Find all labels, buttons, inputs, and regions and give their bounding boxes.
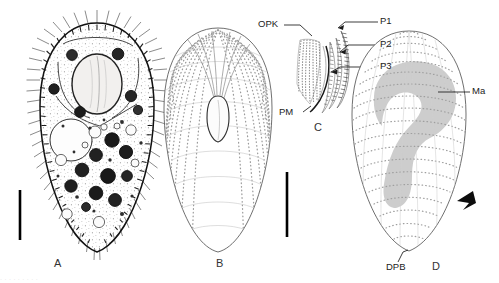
arrowhead-marker-d (457, 191, 476, 210)
label-p2: P2 (380, 39, 392, 49)
oral-structure-b (207, 96, 229, 142)
panel-letter-b: B (216, 258, 223, 269)
panel-letter-c: C (314, 122, 322, 133)
panel-a-drawing (20, 10, 168, 260)
panel-letter-a: A (54, 258, 61, 269)
label-opk: OPK (258, 19, 278, 29)
opk-field (297, 39, 320, 104)
macronucleus-a (72, 54, 122, 114)
label-p3: P3 (380, 61, 392, 71)
leader-pm (303, 106, 311, 112)
panel-b-drawing (164, 28, 287, 252)
panel-d-drawing (352, 31, 476, 262)
label-ma: Ma (472, 86, 485, 96)
caption-fragment: · · · · · · · · · (0, 276, 499, 283)
figure-panel-container: OPK PM P1 P2 P3 Ma DPB A B C D · · · · ·… (0, 0, 499, 283)
label-p1: P1 (380, 16, 392, 26)
panel-letter-d: D (432, 261, 440, 272)
contractile-vacuole-a (50, 119, 92, 161)
label-dpb: DPB (386, 262, 406, 272)
leader-opk (284, 25, 312, 36)
label-pm: PM (279, 107, 293, 117)
figure-drawing-canvas (0, 0, 499, 283)
